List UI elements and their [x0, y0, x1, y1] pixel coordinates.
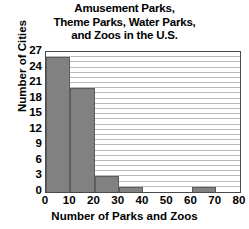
x-tick-label: 40	[131, 195, 153, 207]
y-tick-label: 24	[2, 61, 42, 73]
x-tick-label: 0	[34, 195, 56, 207]
histogram-figure: Amusement Parks, Theme Parks, Water Park…	[0, 0, 249, 229]
x-axis-label: Number of Parks and Zoos	[0, 210, 249, 222]
x-tick-label: 30	[107, 195, 129, 207]
x-tick-label: 70	[204, 195, 226, 207]
x-tick-label: 50	[155, 195, 177, 207]
x-tick-label: 10	[58, 195, 80, 207]
x-tick-label: 60	[180, 195, 202, 207]
x-tick-label: 20	[83, 195, 105, 207]
gridline	[46, 67, 240, 68]
y-tick-label: 6	[2, 154, 42, 166]
gridline	[46, 72, 240, 73]
bar	[192, 187, 216, 192]
y-tick-label: 15	[2, 107, 42, 119]
y-tick-label: 9	[2, 138, 42, 150]
gridline	[46, 51, 240, 52]
gridline	[46, 61, 240, 62]
gridline	[46, 56, 240, 57]
bar	[119, 187, 143, 192]
x-axis-tick-labels: 01020304050607080	[45, 195, 241, 209]
y-tick-label: 18	[2, 92, 42, 104]
gridline	[46, 82, 240, 83]
y-tick-label: 27	[2, 45, 42, 57]
bar	[46, 57, 70, 192]
y-tick-label: 12	[2, 123, 42, 135]
plot-area	[45, 51, 241, 193]
y-tick-label: 3	[2, 169, 42, 181]
gridline	[46, 77, 240, 78]
x-tick-label: 80	[228, 195, 249, 207]
y-tick-label: 21	[2, 76, 42, 88]
bar	[95, 176, 119, 192]
bar	[70, 88, 94, 192]
